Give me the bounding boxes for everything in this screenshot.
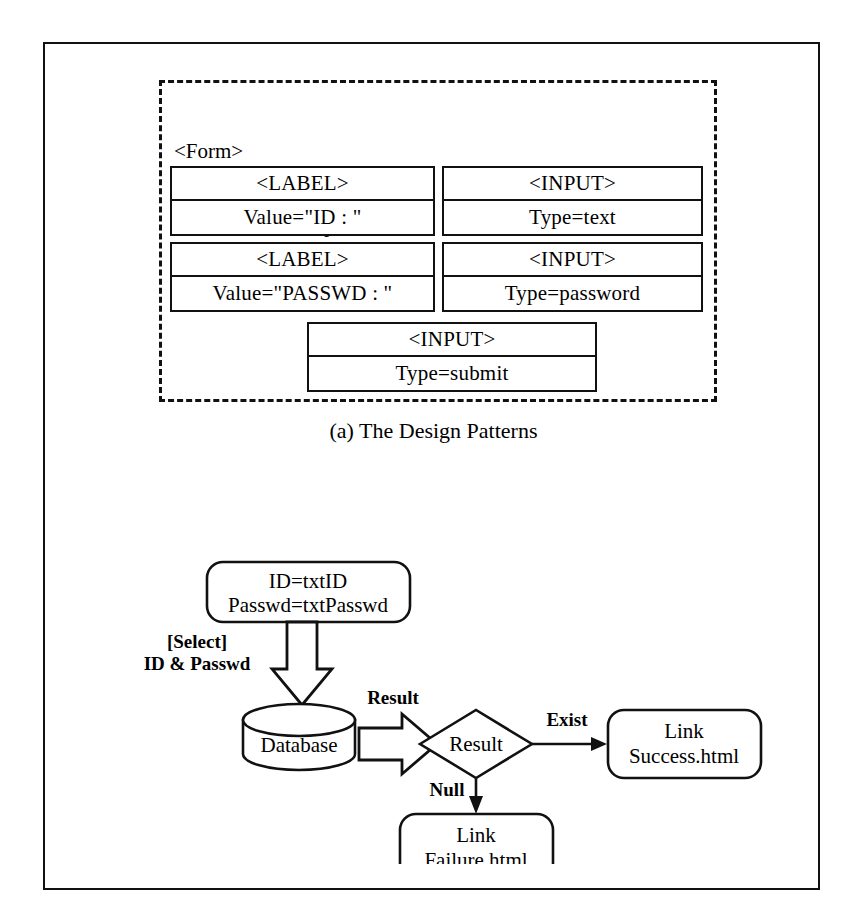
flow-node-failure-line1: Link (456, 823, 496, 847)
flow-arrow-select (272, 622, 332, 705)
flow-node-database: Database (243, 704, 355, 770)
pattern-box-title: <INPUT> (309, 324, 595, 357)
flow-node-failure-line2: Failure.html (424, 848, 527, 864)
pattern-box-title: <INPUT> (444, 244, 701, 277)
pattern-box-input-submit: <INPUT> Type=submit (307, 322, 597, 392)
flow-node-failure: Link Failure.html (400, 814, 553, 864)
flow-node-decision-label: Result (449, 732, 503, 756)
flow-node-success-line1: Link (664, 719, 704, 743)
pattern-box-label-id: <LABEL> Value="ID : " (170, 166, 435, 236)
pattern-box-value: Type=text (444, 201, 701, 234)
flow-node-database-label: Database (261, 733, 338, 757)
flow-arrow-exist (532, 737, 607, 751)
panel-functional-flows: ID=txtID Passwd=txtPasswd [Select] ID & … (45, 464, 822, 892)
pattern-box-value: Value="ID : " (172, 201, 433, 234)
pattern-box-input-id: <INPUT> Type=text (442, 166, 703, 236)
flow-node-success-line2: Success.html (629, 744, 739, 768)
flow-edge-result-label: Result (367, 687, 419, 708)
pattern-box-title: <LABEL> (172, 244, 433, 277)
panel-design-patterns: <Form> Action : Check.asp Method : post … (45, 44, 822, 464)
flow-node-inputs-line1: ID=txtID (269, 569, 347, 593)
pattern-box-value: Type=password (444, 277, 701, 310)
pattern-box-label-passwd: <LABEL> Value="PASSWD : " (170, 242, 435, 312)
flow-node-decision: Result (420, 710, 532, 778)
flow-diagram: ID=txtID Passwd=txtPasswd [Select] ID & … (45, 464, 822, 864)
pattern-box-value: Type=submit (309, 357, 595, 390)
flow-node-success: Link Success.html (608, 710, 761, 778)
caption-panel-a: (a) The Design Patterns (45, 418, 822, 444)
pattern-box-title: <INPUT> (444, 168, 701, 201)
flow-edge-null-label: Null (430, 779, 465, 800)
pattern-box-title: <LABEL> (172, 168, 433, 201)
flow-node-inputs-line2: Passwd=txtPasswd (228, 593, 389, 617)
flow-edge-select-line1: [Select] (167, 631, 227, 652)
flow-edge-select-line2: ID & Passwd (144, 653, 251, 674)
pattern-box-input-passwd: <INPUT> Type=password (442, 242, 703, 312)
flow-edge-exist-label: Exist (546, 709, 588, 730)
flow-node-inputs: ID=txtID Passwd=txtPasswd (207, 562, 410, 622)
pattern-box-value: Value="PASSWD : " (172, 277, 433, 310)
form-tag-label: <Form> (174, 139, 334, 164)
flow-arrow-null (469, 778, 483, 814)
figure-frame: <Form> Action : Check.asp Method : post … (43, 42, 820, 890)
